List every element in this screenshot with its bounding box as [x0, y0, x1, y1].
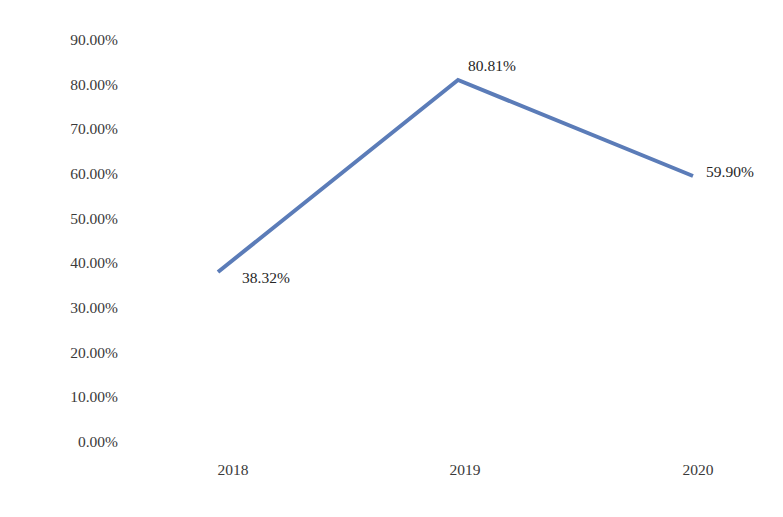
- data-point-label: 80.81%: [468, 58, 516, 74]
- plot-area: [0, 0, 783, 517]
- data-point-label: 38.32%: [242, 270, 290, 286]
- x-axis-tick-label: 2018: [218, 462, 249, 478]
- line-chart: 90.00% 80.00% 70.00% 60.00% 50.00% 40.00…: [0, 0, 783, 517]
- data-point-label: 59.90%: [706, 164, 754, 180]
- x-axis-tick-label: 2020: [683, 462, 714, 478]
- x-axis-tick-label: 2019: [450, 462, 481, 478]
- series-line: [218, 80, 693, 272]
